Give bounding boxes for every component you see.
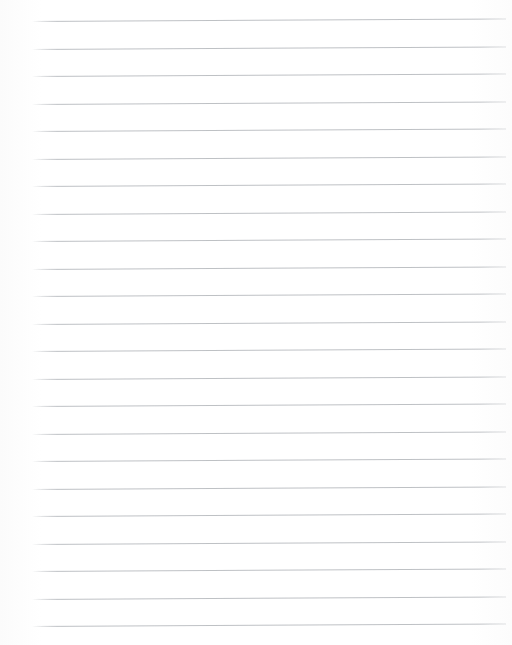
paper-sheet — [0, 0, 512, 645]
writing-area[interactable] — [32, 0, 506, 645]
